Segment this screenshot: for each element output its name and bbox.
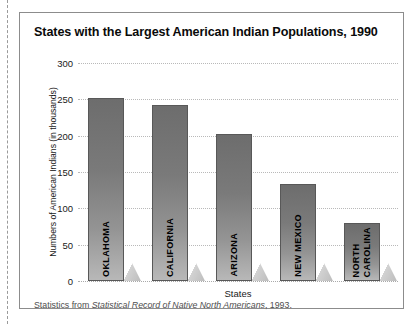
figure-frame: States with the Largest American Indian … xyxy=(19,12,404,309)
bar-arizona[interactable]: ARIZONA xyxy=(216,134,252,282)
y-tick-label-200: 200 xyxy=(57,130,73,141)
bar-rect[interactable] xyxy=(344,223,380,281)
bar-oklahoma[interactable]: OKLAHOMA xyxy=(88,98,124,281)
gridline-300 xyxy=(78,63,398,64)
bar-shadow xyxy=(124,247,141,281)
page-edge-dashed-rule xyxy=(7,0,8,324)
bar-north-carolina[interactable]: NORTH CAROLINA xyxy=(344,223,380,281)
y-tick-label-100: 100 xyxy=(57,203,73,214)
x-axis-title: States xyxy=(78,288,398,299)
gridline-0 xyxy=(78,281,398,282)
y-tick-label-250: 250 xyxy=(57,94,73,105)
plot-area: 050100150200250300OKLAHOMACALIFORNIAARIZ… xyxy=(78,63,398,281)
y-tick-label-0: 0 xyxy=(68,276,73,287)
bar-rect[interactable] xyxy=(216,134,252,282)
bar-shadow xyxy=(188,247,205,281)
bar-shadow xyxy=(316,247,333,281)
bar-california[interactable]: CALIFORNIA xyxy=(152,105,188,281)
bar-shadow xyxy=(380,247,397,281)
bar-shadow xyxy=(252,247,269,281)
y-tick-label-50: 50 xyxy=(62,239,73,250)
bar-rect[interactable] xyxy=(152,105,188,281)
y-tick-label-300: 300 xyxy=(57,58,73,69)
bar-rect[interactable] xyxy=(88,98,124,281)
figure-caption: Statistics from Statistical Record of Na… xyxy=(34,300,292,310)
chart-title: States with the Largest American Indian … xyxy=(34,25,394,39)
bar-rect[interactable] xyxy=(280,184,316,281)
caption-prefix: Statistics from xyxy=(34,300,92,310)
y-tick-label-150: 150 xyxy=(57,167,73,178)
caption-source-title: Statistical Record of Native North Ameri… xyxy=(92,300,265,310)
gridline-250 xyxy=(78,99,398,100)
caption-suffix: , 1993. xyxy=(265,300,292,310)
bar-new-mexico[interactable]: NEW MEXICO xyxy=(280,184,316,281)
